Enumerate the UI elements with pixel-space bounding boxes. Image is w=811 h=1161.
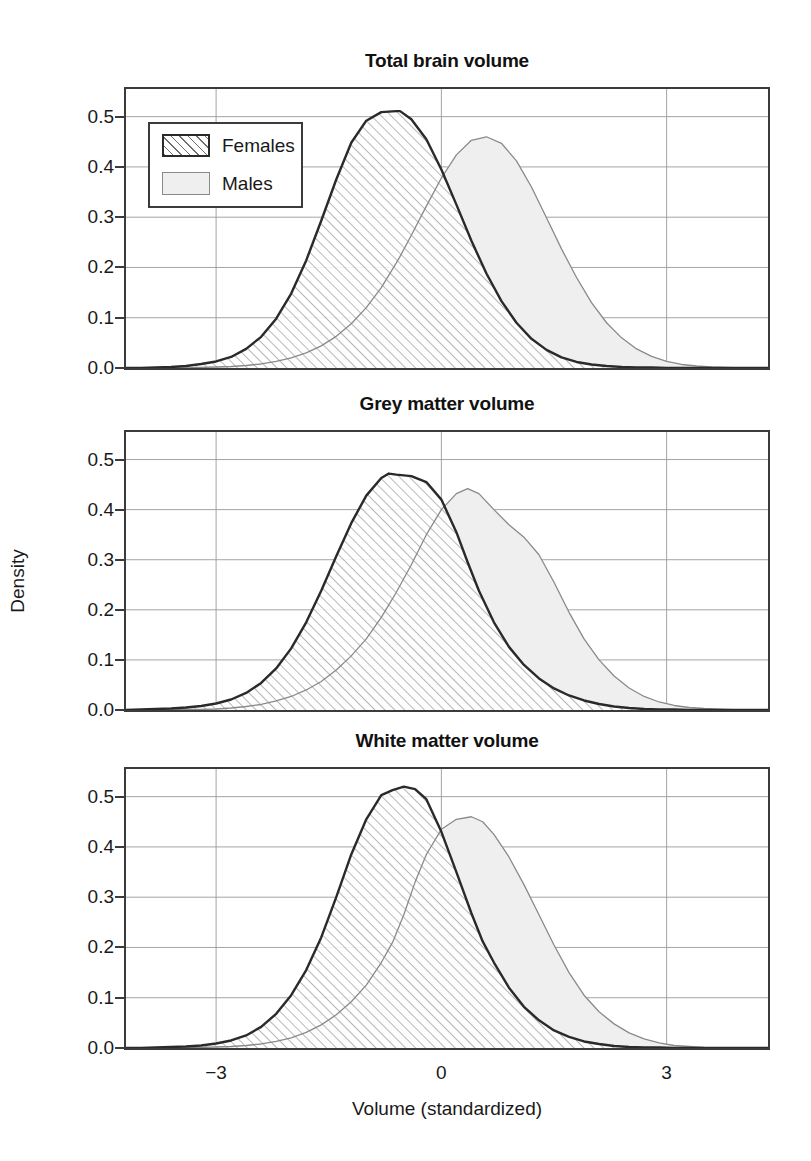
density-plot-svg <box>126 769 768 1048</box>
y-axis-tick-label: 0.1 <box>56 987 114 1009</box>
y-axis-tick-mark <box>115 896 124 898</box>
y-axis-tick-mark <box>115 509 124 511</box>
y-axis-tick-mark <box>115 317 124 319</box>
y-axis-tick-label: 0.3 <box>56 886 114 908</box>
y-axis-tick-mark <box>115 796 124 798</box>
x-axis-tick-label: 0 <box>411 1062 471 1084</box>
y-axis-tick-label: 0.5 <box>56 786 114 808</box>
y-axis-tick-mark <box>115 216 124 218</box>
y-axis-tick-label: 0.5 <box>56 106 114 128</box>
density-figure: Density Volume (standardized) Total brai… <box>0 0 811 1161</box>
y-axis-tick-mark <box>115 116 124 118</box>
y-axis-tick-label: 0.4 <box>56 836 114 858</box>
females-swatch-icon <box>162 134 210 157</box>
y-axis-tick-label: 0.2 <box>56 256 114 278</box>
legend-label-males: Males <box>222 173 273 195</box>
y-axis-tick-label: 0.3 <box>56 549 114 571</box>
y-axis-label: Density <box>7 549 29 612</box>
x-axis-label: Volume (standardized) <box>124 1098 770 1120</box>
density-plot-svg <box>126 432 768 710</box>
y-axis-tick-label: 0.0 <box>56 699 114 721</box>
y-axis-tick-mark <box>115 1047 124 1049</box>
panel-title: White matter volume <box>124 730 770 752</box>
y-axis-tick-mark <box>115 846 124 848</box>
legend-label-females: Females <box>222 135 295 157</box>
y-axis-tick-label: 0.1 <box>56 307 114 329</box>
y-axis-tick-label: 0.1 <box>56 649 114 671</box>
y-axis-tick-label: 0.2 <box>56 936 114 958</box>
y-axis-tick-label: 0.0 <box>56 357 114 379</box>
y-axis-tick-label: 0.4 <box>56 499 114 521</box>
x-axis-tick-label: 3 <box>637 1062 697 1084</box>
y-axis-tick-mark <box>115 559 124 561</box>
y-axis-tick-label: 0.0 <box>56 1037 114 1059</box>
y-axis-tick-mark <box>115 367 124 369</box>
x-axis-tick-label: −3 <box>186 1062 246 1084</box>
y-axis-tick-mark <box>115 946 124 948</box>
y-axis-tick-mark <box>115 459 124 461</box>
legend: Females Males <box>148 122 303 208</box>
y-axis-tick-mark <box>115 997 124 999</box>
panel-title: Total brain volume <box>124 50 770 72</box>
males-swatch-icon <box>162 172 210 195</box>
legend-item-females: Females <box>162 134 295 157</box>
y-axis-tick-mark <box>115 609 124 611</box>
y-axis-tick-mark <box>115 709 124 711</box>
plot-area <box>124 430 770 712</box>
y-axis-tick-label: 0.4 <box>56 156 114 178</box>
y-axis-tick-label: 0.2 <box>56 599 114 621</box>
y-axis-tick-mark <box>115 659 124 661</box>
y-axis-tick-mark <box>115 166 124 168</box>
panel-title: Grey matter volume <box>124 393 770 415</box>
y-axis-tick-label: 0.3 <box>56 206 114 228</box>
y-axis-tick-label: 0.5 <box>56 449 114 471</box>
y-axis-tick-mark <box>115 266 124 268</box>
plot-area <box>124 767 770 1050</box>
legend-item-males: Males <box>162 172 273 195</box>
